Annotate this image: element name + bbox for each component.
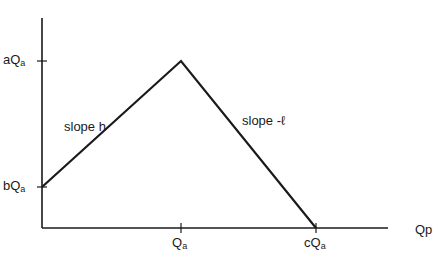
slope-down-label: slope -ℓ	[242, 114, 285, 127]
y-tick-label-bqa-sub: a	[20, 184, 25, 194]
x-axis-label: Qp	[415, 223, 432, 236]
slope-up-label: slope h	[64, 120, 106, 133]
x-tick-label-cqa-main: cQ	[304, 235, 321, 250]
y-tick-label-bqa: bQa	[3, 179, 25, 194]
y-tick-label-aqa-main: aQ	[3, 52, 20, 67]
y-tick-label-aqa: aQa	[3, 53, 25, 68]
y-tick-label-aqa-sub: a	[20, 58, 25, 68]
y-tick-label-bqa-main: bQ	[3, 178, 20, 193]
x-tick-label-qa-sub: a	[182, 241, 187, 251]
x-tick-label-qa-main: Q	[172, 235, 182, 250]
x-tick-label-qa: Qa	[172, 236, 187, 251]
piecewise-curve	[42, 61, 316, 228]
x-tick-label-cqa-sub: a	[321, 241, 326, 251]
x-tick-label-cqa: cQa	[304, 236, 326, 251]
